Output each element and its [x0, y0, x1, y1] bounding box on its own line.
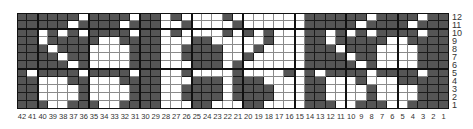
chart-cell [428, 37, 438, 45]
chart-cell [398, 13, 408, 21]
chart-cell [408, 53, 418, 61]
chart-cell [243, 93, 253, 101]
chart-cell [367, 85, 377, 93]
column-number: 36 [79, 112, 89, 121]
chart-cell [48, 53, 58, 61]
chart-cell [439, 69, 449, 77]
column-number: 41 [27, 112, 37, 121]
chart-cell [398, 53, 408, 61]
chart-cell [140, 29, 150, 37]
chart-cell [68, 69, 78, 77]
chart-cell [151, 101, 161, 109]
chart-cell [377, 29, 387, 37]
chart-cell [212, 13, 222, 21]
chart-cell [58, 69, 68, 77]
chart-cell [295, 101, 305, 109]
chart-cell [120, 13, 130, 21]
chart-cell [89, 45, 99, 53]
chart-cell [254, 29, 264, 37]
chart-cell [326, 37, 336, 45]
chart-cell [254, 93, 264, 101]
column-number: 40 [38, 112, 48, 121]
chart-cell [254, 69, 264, 77]
chart-cell [274, 37, 284, 45]
chart-cell [223, 45, 233, 53]
chart-cell [192, 45, 202, 53]
chart-cell [202, 37, 212, 45]
chart-cell [295, 37, 305, 45]
chart-cell [120, 85, 130, 93]
chart-cell [356, 85, 366, 93]
chart-cell [223, 69, 233, 77]
chart-cell [17, 53, 27, 61]
chart-cell [295, 29, 305, 37]
chart-cell [295, 93, 305, 101]
column-number: 16 [284, 112, 294, 121]
chart-cell [151, 29, 161, 37]
chart-cell [243, 101, 253, 109]
chart-cell [264, 29, 274, 37]
chart-cell [243, 29, 253, 37]
chart-cell [48, 77, 58, 85]
chart-cell [243, 69, 253, 77]
chart-cell [243, 85, 253, 93]
chart-cell [418, 53, 428, 61]
chart-cell [17, 85, 27, 93]
chart-cell [305, 77, 315, 85]
chart-cell [48, 29, 58, 37]
chart-cell [377, 53, 387, 61]
chart-cell [295, 77, 305, 85]
chart-cell [202, 53, 212, 61]
column-number: 38 [58, 112, 68, 121]
column-number: 3 [418, 112, 428, 121]
column-number: 26 [182, 112, 192, 121]
chart-cell [171, 69, 181, 77]
chart-cell [151, 77, 161, 85]
chart-cell [326, 53, 336, 61]
chart-cell [305, 85, 315, 93]
chart-cell [68, 37, 78, 45]
chart-cell [151, 53, 161, 61]
chart-cell [202, 29, 212, 37]
chart-cell [264, 93, 274, 101]
chart-cell [110, 69, 120, 77]
chart-cell [140, 85, 150, 93]
chart-cell [212, 69, 222, 77]
chart-cell [356, 69, 366, 77]
chart-cell [264, 37, 274, 45]
chart-cell [38, 13, 48, 21]
chart-cell [326, 101, 336, 109]
chart-cell [408, 85, 418, 93]
chart-cell [161, 69, 171, 77]
chart-cell [192, 101, 202, 109]
chart-cell [408, 13, 418, 21]
chart-cell [346, 85, 356, 93]
column-number: 10 [346, 112, 356, 121]
chart-cell [89, 37, 99, 45]
chart-cell [212, 45, 222, 53]
chart-cell [58, 45, 68, 53]
chart-cell [68, 29, 78, 37]
chart-cell [48, 85, 58, 93]
chart-cell [356, 29, 366, 37]
column-number: 35 [89, 112, 99, 121]
chart-cell [192, 29, 202, 37]
chart-cell [99, 69, 109, 77]
chart-cell [17, 13, 27, 21]
chart-cell [120, 37, 130, 45]
chart-cell [274, 69, 284, 77]
chart-cell [58, 37, 68, 45]
chart-cell [171, 77, 181, 85]
chart-cell [315, 53, 325, 61]
chart-cell [58, 13, 68, 21]
chart-cell [428, 13, 438, 21]
column-number: 1 [439, 112, 449, 121]
chart-cell [439, 13, 449, 21]
chart-cell [120, 93, 130, 101]
chart-cell [367, 13, 377, 21]
chart-cell [356, 37, 366, 45]
chart-cell [439, 101, 449, 109]
chart-cell [58, 53, 68, 61]
chart-cell [408, 29, 418, 37]
chart-cell [58, 29, 68, 37]
